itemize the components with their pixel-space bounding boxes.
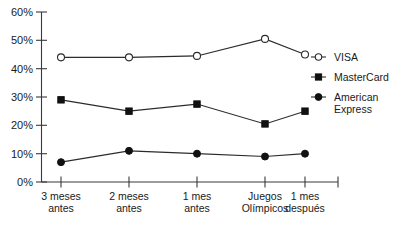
legend-entry-visa[interactable]: VISA (311, 51, 358, 63)
y-tick-label-50: 50% (11, 34, 33, 46)
legend-entry-american-express[interactable]: American Express (311, 91, 379, 115)
chart-container: 60% 50% 40% 30% 20% 10% 0% 3 meses antes… (0, 0, 397, 227)
chart-legend: VISA MasterCard American Express (311, 51, 389, 115)
y-tick-label-60: 60% (11, 6, 33, 18)
x-label-0-line1: 3 meses (41, 190, 81, 202)
legend-label-american-express-line1: American (334, 91, 379, 103)
data-point-open-circle (58, 54, 65, 61)
x-label-2-line1: 1 mes (183, 190, 212, 202)
x-label-4-line1: 1 mes (291, 190, 320, 202)
y-axis-tick-labels: 60% 50% 40% 30% 20% 10% 0% (11, 6, 33, 188)
x-label-3-line2: Olímpicos (242, 202, 289, 214)
legend-label-mastercard: MasterCard (334, 71, 389, 83)
data-point-open-circle (262, 35, 269, 42)
data-point-square (194, 101, 200, 107)
data-point-circle (262, 153, 269, 160)
data-point-square (262, 121, 268, 127)
y-tick-label-10: 10% (11, 148, 33, 160)
legend-entry-mastercard[interactable]: MasterCard (311, 71, 389, 83)
data-point-square (126, 108, 132, 114)
data-point-circle (194, 150, 201, 157)
series-layer (58, 35, 309, 165)
filled-circle-icon (315, 94, 322, 101)
data-point-square (302, 108, 308, 114)
line-chart: 60% 50% 40% 30% 20% 10% 0% 3 meses antes… (0, 0, 397, 227)
series-mastercard (58, 97, 308, 127)
data-point-open-circle (194, 52, 201, 59)
x-label-1-line2: antes (116, 202, 142, 214)
filled-square-icon (315, 74, 321, 80)
data-point-square (58, 97, 64, 103)
y-tick-label-0: 0% (17, 176, 33, 188)
y-tick-label-30: 30% (11, 91, 33, 103)
legend-label-american-express-line2: Express (334, 103, 372, 115)
data-point-open-circle (126, 54, 133, 61)
x-label-0-line2: antes (48, 202, 74, 214)
series-line-0 (61, 39, 305, 57)
legend-label-visa: VISA (334, 51, 358, 63)
data-point-circle (302, 150, 309, 157)
x-label-1-line1: 2 meses (109, 190, 149, 202)
series-visa (58, 35, 309, 60)
x-label-4-line2: después (285, 202, 325, 214)
open-circle-icon (315, 54, 321, 60)
x-label-2-line2: antes (184, 202, 210, 214)
data-point-open-circle (302, 51, 309, 58)
x-label-3-line1: Juegos (248, 190, 282, 202)
data-point-circle (126, 147, 133, 154)
series-american-express (58, 147, 309, 165)
x-axis-category-labels: 3 meses antes 2 meses antes 1 mes antes … (41, 190, 325, 214)
y-tick-label-40: 40% (11, 63, 33, 75)
y-tick-label-20: 20% (11, 119, 33, 131)
data-point-circle (58, 159, 65, 166)
